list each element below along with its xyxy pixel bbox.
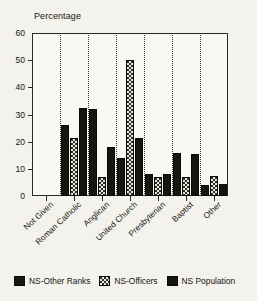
bar bbox=[135, 138, 143, 196]
y-axis-tick-label: 60 bbox=[1, 28, 25, 38]
y-axis-tick-label: 30 bbox=[1, 110, 25, 120]
legend-swatch-icon bbox=[167, 276, 178, 286]
bar bbox=[89, 109, 97, 196]
bar bbox=[191, 154, 199, 196]
legend-item: NS-Other Ranks bbox=[14, 276, 90, 286]
y-axis-tick-mark bbox=[28, 115, 32, 116]
bar bbox=[182, 177, 190, 196]
bar bbox=[117, 158, 125, 196]
legend-item: NS Population bbox=[167, 276, 236, 286]
y-axis-tick-mark bbox=[28, 60, 32, 61]
legend-swatch-icon bbox=[99, 276, 110, 286]
y-axis-tick-mark bbox=[28, 87, 32, 88]
y-axis-tick-label: 20 bbox=[1, 137, 25, 147]
bar bbox=[61, 125, 69, 196]
legend: NS-Other RanksNS-OfficersNS Population bbox=[14, 276, 244, 286]
y-axis-tick-label: 0 bbox=[1, 191, 25, 201]
y-axis-tick-mark bbox=[28, 142, 32, 143]
gridline-separator bbox=[200, 33, 201, 196]
x-axis-tick-label: Baptist bbox=[170, 200, 195, 224]
bar bbox=[145, 174, 153, 196]
bar bbox=[70, 138, 78, 196]
chart-title: Percentage bbox=[34, 11, 81, 21]
gridline-separator bbox=[144, 33, 145, 196]
y-axis-tick-label: 40 bbox=[1, 82, 25, 92]
bar bbox=[173, 153, 181, 196]
legend-label: NS-Other Ranks bbox=[29, 276, 90, 286]
bar bbox=[98, 177, 106, 196]
bar bbox=[107, 147, 115, 196]
bar bbox=[126, 60, 134, 196]
legend-label: NS Population bbox=[182, 276, 236, 286]
bar bbox=[163, 174, 171, 196]
y-axis-tick-label: 50 bbox=[1, 55, 25, 65]
bar bbox=[154, 177, 162, 196]
bar bbox=[210, 176, 218, 196]
legend-swatch-icon bbox=[14, 276, 25, 286]
legend-label: NS-Officers bbox=[114, 276, 157, 286]
bar bbox=[201, 185, 209, 196]
legend-item: NS-Officers bbox=[99, 276, 157, 286]
bar-chart: Percentage 0102030405060 Not GivenRoman … bbox=[0, 0, 257, 301]
x-axis-tick-label: Other bbox=[202, 200, 223, 221]
y-axis-tick-mark bbox=[28, 169, 32, 170]
y-axis-tick-label: 10 bbox=[1, 164, 25, 174]
bar bbox=[219, 184, 227, 196]
bar bbox=[79, 108, 87, 196]
